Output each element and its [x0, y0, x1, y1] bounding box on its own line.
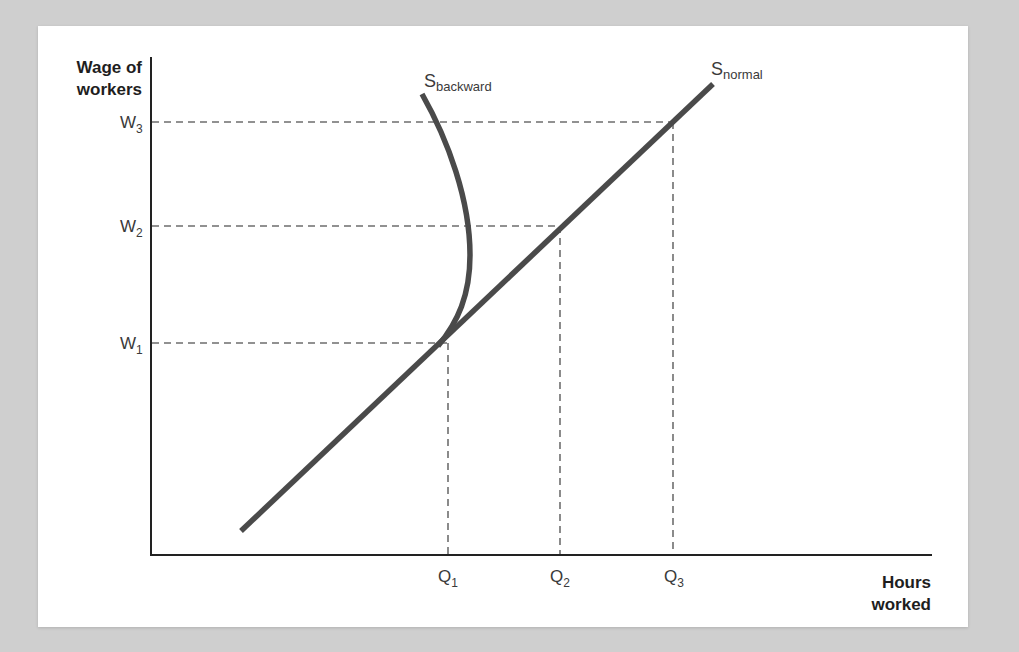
s-normal-curve	[241, 84, 713, 531]
s-normal-label: Snormal	[711, 59, 763, 82]
x-tick-q3: Q3	[664, 567, 684, 590]
labor-supply-chart: Wage of workers Hours worked W3 W2 W1 Q1…	[0, 0, 1019, 652]
s-backward-curve	[422, 94, 470, 346]
y-axis-title-line1: Wage of	[77, 58, 143, 77]
guide-lines	[152, 122, 673, 554]
x-tick-q2: Q2	[550, 567, 570, 590]
y-tick-w1: W1	[120, 334, 143, 357]
y-axis-title-line2: workers	[76, 80, 142, 99]
y-tick-w2: W2	[120, 217, 143, 240]
y-tick-w3: W3	[120, 113, 143, 136]
x-axis-title-line2: worked	[870, 595, 931, 614]
s-backward-label: Sbackward	[424, 71, 492, 94]
x-tick-q1: Q1	[438, 567, 458, 590]
x-axis-title-line1: Hours	[882, 573, 931, 592]
